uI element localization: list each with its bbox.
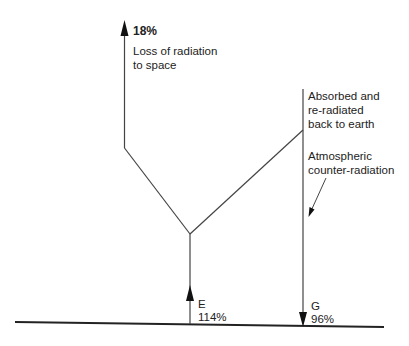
split-line-left — [125, 148, 191, 234]
reradiated-caption-1: Absorbed and — [308, 90, 380, 103]
reradiated-caption-2: re-radiated — [308, 104, 364, 117]
earth-emission-percent: 114% — [198, 311, 227, 324]
pointer-arrow-icon — [309, 207, 315, 217]
arrow-up-icon — [186, 285, 194, 301]
space-loss-caption-2: to space — [133, 59, 176, 72]
counter-radiation-caption-2: counter-radiation — [308, 164, 394, 177]
ground-receipt-letter: G — [311, 300, 320, 313]
arrow-up-icon — [121, 20, 129, 36]
pointer-line — [311, 178, 326, 211]
space-loss-caption-1: Loss of radiation — [133, 45, 217, 58]
ground-receipt-percent: 96% — [311, 313, 334, 326]
reradiated-caption-3: back to earth — [308, 118, 374, 131]
counter-radiation-caption-1: Atmospheric — [308, 150, 372, 163]
arrow-down-icon — [299, 312, 307, 327]
space-loss-percent: 18% — [133, 25, 157, 38]
earth-emission-letter: E — [198, 298, 206, 311]
split-line-right — [190, 130, 303, 234]
